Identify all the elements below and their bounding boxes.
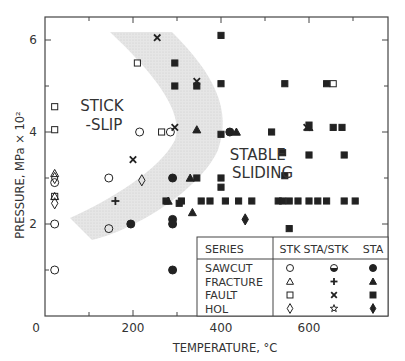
svg-text:STA/STK: STA/STK [304,243,350,256]
y-tick-label: 2 [29,217,37,231]
x-tick-label: 0 [32,321,40,335]
region-label: STICK [80,97,125,115]
y-tick-label: 6 [29,33,37,47]
svg-text:STA: STA [363,243,384,256]
legend: SERIESSTKSTA/STKSTASAWCUTFRACTUREFAULTHO… [197,237,388,316]
legend-header: SERIES [205,243,244,256]
transition-band [70,32,223,240]
x-tick-label: 400 [210,321,233,335]
region-label: -SLIP [85,116,122,134]
svg-text:STK: STK [280,243,302,256]
x-tick-label: 600 [298,321,321,335]
y-tick-label: 4 [29,125,37,139]
svg-text:FAULT: FAULT [205,289,238,302]
series-hol-sta [242,214,248,225]
scatter-chart: 0200400600246TEMPERATURE, °CPRESSURE, MP… [0,0,405,361]
y-axis-title: PRESSURE, MPa × 10² [13,111,27,238]
region-label: STABLE [230,146,286,164]
x-tick-label: 200 [122,321,145,335]
svg-text:HOL: HOL [205,303,229,316]
svg-text:FRACTURE: FRACTURE [205,276,263,289]
region-label: SLIDING [232,164,293,182]
svg-text:SAWCUT: SAWCUT [205,262,253,275]
x-axis-title: TEMPERATURE, °C [172,341,278,355]
